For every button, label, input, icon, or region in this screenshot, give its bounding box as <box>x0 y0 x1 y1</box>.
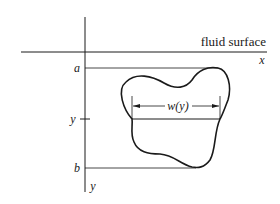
width-right-arrowhead-icon <box>212 104 219 108</box>
bottom-label-b: b <box>74 161 80 175</box>
width-left-arrowhead-icon <box>133 104 140 108</box>
plate-outline <box>121 68 229 168</box>
top-label-a: a <box>74 61 80 75</box>
y-axis-label: y <box>89 179 96 193</box>
fluid-surface-label: fluid surface <box>201 34 267 49</box>
submerged-plate-diagram: fluid surface x a y b y w(y) <box>0 0 280 204</box>
x-axis-label: x <box>258 53 265 67</box>
level-label-y: y <box>69 112 76 126</box>
width-label: w(y) <box>167 99 188 113</box>
